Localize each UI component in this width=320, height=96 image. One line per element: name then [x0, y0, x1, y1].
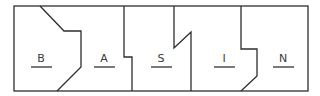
divider-1: [40, 6, 81, 91]
puzzle-outline: [0, 0, 320, 96]
answer-blank-a: [94, 66, 115, 68]
outer-frame: [14, 6, 308, 91]
divider-3: [174, 6, 191, 91]
piece-label-s: S: [149, 53, 173, 65]
divider-2: [124, 6, 132, 91]
answer-blank-n: [273, 66, 294, 68]
piece-label-i: I: [212, 53, 236, 65]
divider-4: [241, 6, 257, 91]
piece-label-n: N: [271, 53, 295, 65]
answer-blank-i: [214, 66, 235, 68]
piece-label-a: A: [92, 53, 116, 65]
answer-blank-b: [31, 66, 52, 68]
piece-label-b: B: [29, 53, 53, 65]
answer-blank-s: [151, 66, 172, 68]
